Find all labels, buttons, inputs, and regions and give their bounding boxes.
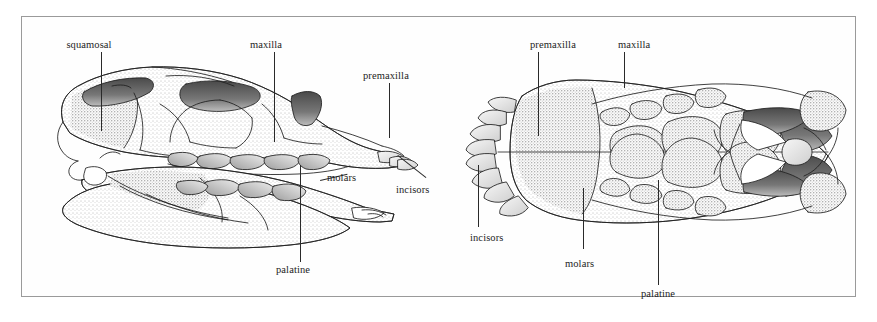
label-palatine-lateral: palatine [276,264,310,275]
label-incisors-lateral: incisors [396,184,429,195]
leader-maxilla-lateral [274,52,275,142]
label-maxilla-lateral: maxilla [250,39,282,50]
leader-premaxilla-lateral [389,83,390,138]
label-molars-palatal: molars [565,258,594,269]
label-palatine-palatal: palatine [641,288,675,299]
leader-premaxilla-palatal [538,52,539,136]
label-premaxilla-lateral: premaxilla [363,70,409,81]
leader-palatine-palatal [658,180,659,285]
leader-molars-palatal [583,188,584,249]
label-maxilla-palatal: maxilla [618,39,650,50]
plate-frame [21,16,856,297]
leader-palatine-lateral [300,165,301,262]
leader-squamosal [101,52,102,131]
label-incisors-palatal: incisors [470,232,503,243]
illustration-plate: squamosal maxilla premaxilla molars inci… [0,0,877,322]
leader-incisors-palatal [478,165,479,227]
label-premaxilla-palatal: premaxilla [530,39,576,50]
leader-maxilla-palatal [624,52,625,88]
label-squamosal-lateral: squamosal [66,39,111,50]
label-molars-lateral: molars [327,172,356,183]
